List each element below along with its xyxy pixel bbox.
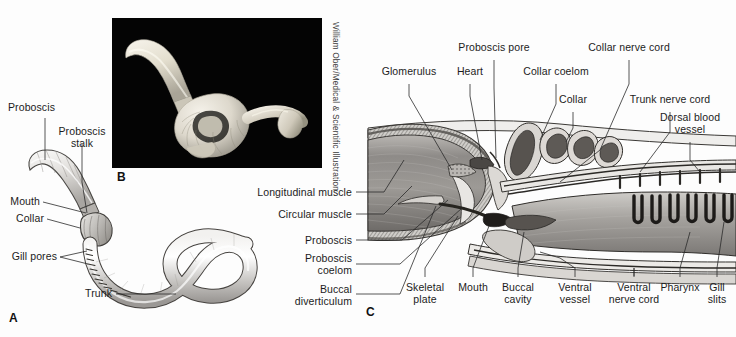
label-proboscis-coelom: Probosciscoelom <box>305 253 352 276</box>
label-ventral-nerve-cord: Ventralnerve cord <box>609 282 660 305</box>
label-collar-coelom: Collar coelom <box>523 66 589 78</box>
label-pharynx: Pharynx <box>660 282 699 294</box>
panel-letter-c: C <box>366 305 375 319</box>
label-heart: Heart <box>457 66 483 78</box>
figure-root: Proboscis Proboscisstalk Mouth Collar Gi… <box>0 0 736 337</box>
label-dorsal-blood-vessel: Dorsal bloodvessel <box>660 112 720 135</box>
label-ventral-vessel: Ventralvessel <box>558 282 591 305</box>
label-proboscis-c: Proboscis <box>305 235 352 247</box>
label-buccal-diverticulum: Buccaldiverticulum <box>295 284 352 307</box>
label-glomerulus: Glomerulus <box>382 66 437 78</box>
label-collar-nerve-cord: Collar nerve cord <box>588 42 670 54</box>
label-proboscis-pore: Proboscis pore <box>458 42 529 54</box>
label-mouth-c: Mouth <box>458 282 488 294</box>
label-skeletal-plate: Skeletalplate <box>406 282 444 305</box>
label-circular-muscle: Circular muscle <box>278 209 352 221</box>
label-gill-slits: Gillslits <box>708 282 727 305</box>
label-buccal-cavity: Buccalcavity <box>502 282 534 305</box>
label-trunk-nerve-cord: Trunk nerve cord <box>630 94 711 106</box>
label-longitudinal-muscle: Longitudinal muscle <box>257 187 352 199</box>
label-collar-c: Collar <box>559 94 587 106</box>
